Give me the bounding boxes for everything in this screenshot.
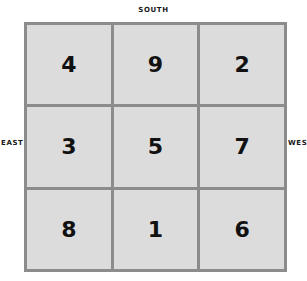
cell-r2-c1: 3 — [27, 107, 111, 186]
cell-r2-c3: 7 — [200, 107, 284, 186]
direction-label-south: SOUTH — [0, 6, 307, 14]
cell-r2-c2: 5 — [114, 107, 198, 186]
cell-r1-c3: 2 — [200, 25, 284, 104]
cell-r3-c2: 1 — [114, 190, 198, 269]
cell-r1-c2: 9 — [114, 25, 198, 104]
direction-label-west: WEST — [288, 139, 307, 147]
cell-r1-c1: 4 — [27, 25, 111, 104]
cell-r3-c1: 8 — [27, 190, 111, 269]
cell-r3-c3: 6 — [200, 190, 284, 269]
direction-label-east: EAST — [1, 139, 23, 147]
magic-square-grid: 4 9 2 3 5 7 8 1 6 — [24, 22, 287, 272]
